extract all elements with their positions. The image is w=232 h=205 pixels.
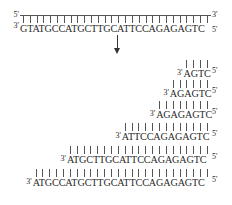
base-pair-tick — [70, 146, 71, 154]
fragment-5prime-label: 5' — [212, 153, 217, 161]
base-pair-tick — [132, 146, 133, 154]
base-pair-tick — [207, 80, 208, 88]
base-pair-tick — [97, 169, 98, 177]
fragment-sequence: AGAGTC — [170, 89, 211, 99]
base-pair-tick — [186, 101, 187, 109]
base-pair-tick — [91, 15, 92, 23]
base-pair-tick — [152, 169, 153, 177]
fragment-5prime-label: 5' — [212, 108, 217, 116]
base-pair-tick — [98, 15, 99, 23]
base-pair-tick — [105, 15, 106, 23]
base-pair-tick — [90, 169, 91, 177]
base-pair-tick — [173, 169, 174, 177]
base-pair-tick — [145, 123, 146, 131]
base-pair-tick — [84, 146, 85, 154]
base-pair-tick — [193, 15, 194, 23]
fragment-3prime-label: 3' — [163, 89, 168, 97]
down-arrow-icon — [117, 35, 118, 49]
base-pair-tick — [118, 146, 119, 154]
base-pair-tick — [56, 169, 57, 177]
base-pair-tick — [125, 123, 126, 131]
sequence-5prime-label: 5' — [212, 26, 217, 34]
base-pair-tick — [138, 123, 139, 131]
base-pair-tick — [42, 169, 43, 177]
base-pair-tick — [43, 15, 44, 23]
base-pair-tick — [207, 169, 208, 177]
fragment-row: 3' AGAGAGTC 5' — [156, 101, 211, 120]
base-pair-tick — [180, 15, 181, 23]
fragment-sequence: AGAGAGTC — [156, 110, 211, 120]
fragment-base-pair-ticks — [184, 60, 211, 68]
fragment-5prime-label: 5' — [212, 67, 217, 75]
base-pair-tick — [118, 169, 119, 177]
base-pair-tick — [193, 146, 194, 154]
base-pair-tick — [200, 101, 201, 109]
base-pair-tick — [63, 169, 64, 177]
base-pair-tick — [23, 15, 24, 23]
fragment-3prime-label: 3' — [177, 69, 182, 77]
base-pair-tick — [180, 146, 181, 154]
base-pair-tick — [104, 169, 105, 177]
fragment-row: 3' ATGCCATGCTTGCATTCCAGAGAGTC 5' — [33, 169, 211, 188]
fragment-base-pair-ticks — [170, 80, 211, 88]
base-pair-tick — [104, 146, 105, 154]
base-pair-tick — [207, 123, 208, 131]
fragment-3prime-label: 3' — [26, 178, 31, 186]
fragment-3prime-label: 3' — [61, 155, 66, 163]
base-pair-tick — [186, 123, 187, 131]
base-pair-tick — [200, 169, 201, 177]
base-pair-tick — [37, 15, 38, 23]
base-pair-tick — [207, 101, 208, 109]
base-pair-tick — [166, 169, 167, 177]
template-sequence: GTATGCCATGCTTGCATTCCAGAGAGTC — [20, 24, 211, 34]
base-pair-tick — [111, 169, 112, 177]
base-pair-tick — [70, 169, 71, 177]
base-pair-tick — [186, 169, 187, 177]
base-pair-tick — [200, 15, 201, 23]
base-pair-tick — [125, 15, 126, 23]
base-pair-tick — [132, 15, 133, 23]
base-pair-tick — [180, 101, 181, 109]
base-pair-tick — [186, 146, 187, 154]
arrow-head-icon — [114, 48, 120, 54]
template-5prime-label: 5' — [14, 11, 19, 19]
fragment-5prime-label: 5' — [212, 87, 217, 95]
base-pair-tick — [145, 146, 146, 154]
base-pair-tick — [180, 123, 181, 131]
base-pair-tick — [207, 15, 208, 23]
base-pair-tick — [193, 169, 194, 177]
fragment-row: 3' AGTC 5' — [184, 60, 211, 79]
base-pair-tick — [111, 146, 112, 154]
base-pair-tick — [159, 15, 160, 23]
base-pair-tick — [193, 60, 194, 68]
fragment-base-pair-ticks — [33, 169, 211, 177]
base-pair-tick — [146, 15, 147, 23]
base-pair-tick — [49, 169, 50, 177]
fragment-base-pair-ticks — [67, 146, 211, 154]
base-pair-tick — [200, 80, 201, 88]
base-pair-tick — [166, 15, 167, 23]
base-pair-tick — [84, 169, 85, 177]
base-pair-tick — [152, 146, 153, 154]
fragment-sequence: ATGCTTGCATTCCAGAGAGTC — [67, 155, 211, 165]
base-pair-tick — [186, 60, 187, 68]
fragment-row: 3' ATTCCAGAGAGTC 5' — [122, 123, 211, 142]
fragment-base-pair-ticks — [122, 123, 211, 131]
base-pair-tick — [173, 101, 174, 109]
base-pair-tick — [166, 146, 167, 154]
sequence-3prime-label: 3' — [14, 22, 19, 30]
base-pair-tick — [186, 15, 187, 23]
base-pair-tick — [97, 146, 98, 154]
base-pair-tick — [159, 169, 160, 177]
base-pair-tick — [166, 123, 167, 131]
base-pair-tick — [57, 15, 58, 23]
base-pair-tick — [152, 123, 153, 131]
base-pair-tick — [84, 15, 85, 23]
base-pair-tick — [138, 146, 139, 154]
base-pair-tick — [152, 15, 153, 23]
base-pair-tick — [173, 123, 174, 131]
base-pair-tick — [193, 80, 194, 88]
base-pair-tick — [64, 15, 65, 23]
template-base-pair-ticks — [20, 15, 211, 23]
base-pair-tick — [207, 60, 208, 68]
